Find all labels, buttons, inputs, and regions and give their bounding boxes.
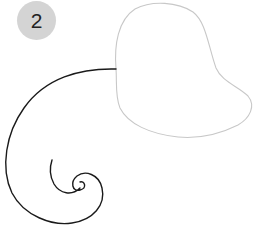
drawing-canvas — [0, 0, 256, 229]
string-spiral — [6, 69, 116, 224]
balloon-outline — [116, 3, 252, 137]
